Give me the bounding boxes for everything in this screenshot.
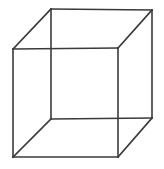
- edge-back-face-bottom: [51, 118, 152, 119]
- cube-connecting-edges: [13, 9, 152, 157]
- necker-cube-figure: Necker Cube: [0, 0, 164, 169]
- edge-back-face-top: [51, 9, 152, 10]
- edge-connector-top-left: [13, 9, 51, 49]
- edge-connector-bottom-right: [118, 118, 152, 157]
- cube-back-face: [51, 9, 152, 119]
- edge-connector-top-right: [118, 10, 152, 48]
- edge-front-face-top: [13, 48, 118, 49]
- edge-connector-bottom-left: [13, 119, 51, 157]
- cube-drawing-surface: Necker Cube: [0, 0, 164, 169]
